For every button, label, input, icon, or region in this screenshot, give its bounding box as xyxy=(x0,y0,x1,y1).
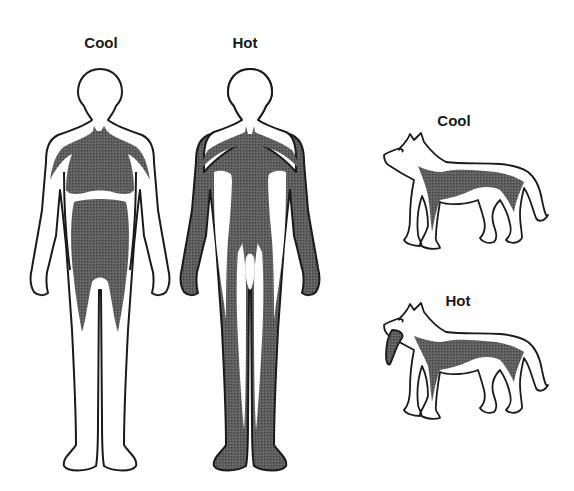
human-cool-figure xyxy=(30,69,169,471)
dog-hot-tongue xyxy=(386,330,403,365)
dog-hot-figure xyxy=(384,303,548,419)
diagram-canvas xyxy=(0,0,574,491)
human-hot-figure xyxy=(180,69,319,471)
human-cool-abdomen-blood xyxy=(71,199,129,332)
dog-cool-figure xyxy=(384,133,548,249)
